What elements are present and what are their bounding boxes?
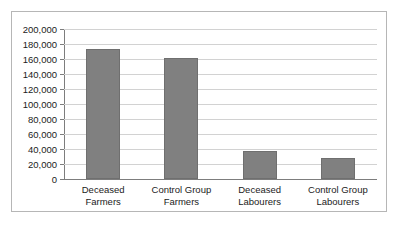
x-axis-category-line: Deceased <box>221 184 299 196</box>
x-axis-category-line: Labourers <box>299 196 377 208</box>
x-axis-category-line: Farmers <box>142 196 220 208</box>
y-axis-tick-label: 160,000 <box>9 55 57 64</box>
x-axis-category-label: Control GroupLabourers <box>299 184 377 207</box>
y-axis-tick-label: 120,000 <box>9 85 57 94</box>
y-axis-tick-label: 60,000 <box>9 130 57 139</box>
y-axis-tick-label: 20,000 <box>9 160 57 169</box>
chart-frame: 200,000180,000160,000140,000120,000100,0… <box>11 11 387 212</box>
y-axis-line <box>64 30 65 180</box>
gridline <box>64 44 377 45</box>
gridline <box>64 29 377 30</box>
gridline <box>64 179 377 180</box>
y-axis-tick-label: 100,000 <box>9 100 57 109</box>
x-axis-category-line: Deceased <box>64 184 142 196</box>
x-axis-category-line: Farmers <box>64 196 142 208</box>
x-axis-category-line: Control Group <box>142 184 220 196</box>
x-axis-category-line: Labourers <box>221 196 299 208</box>
y-axis-tick-label: 40,000 <box>9 145 57 154</box>
x-axis-category-line: Control Group <box>299 184 377 196</box>
chart-plot-wrapper: 200,000180,000160,000140,000120,000100,0… <box>12 12 386 211</box>
y-axis-tick-label: 180,000 <box>9 40 57 49</box>
y-axis-tick-label: 0 <box>9 175 57 184</box>
x-axis-category-label: DeceasedLabourers <box>221 184 299 207</box>
y-axis-tick-label: 80,000 <box>9 115 57 124</box>
plot-area <box>64 30 377 180</box>
bar <box>321 158 355 179</box>
bar <box>164 58 198 179</box>
bar <box>243 151 277 180</box>
x-axis-category-label: DeceasedFarmers <box>64 184 142 207</box>
x-axis: DeceasedFarmersControl GroupFarmersDecea… <box>64 184 377 212</box>
y-axis: 200,000180,000160,000140,000120,000100,0… <box>12 26 60 178</box>
y-axis-tick-label: 200,000 <box>9 25 57 34</box>
y-axis-tick-label: 140,000 <box>9 70 57 79</box>
x-axis-category-label: Control GroupFarmers <box>142 184 220 207</box>
bar <box>86 49 120 179</box>
